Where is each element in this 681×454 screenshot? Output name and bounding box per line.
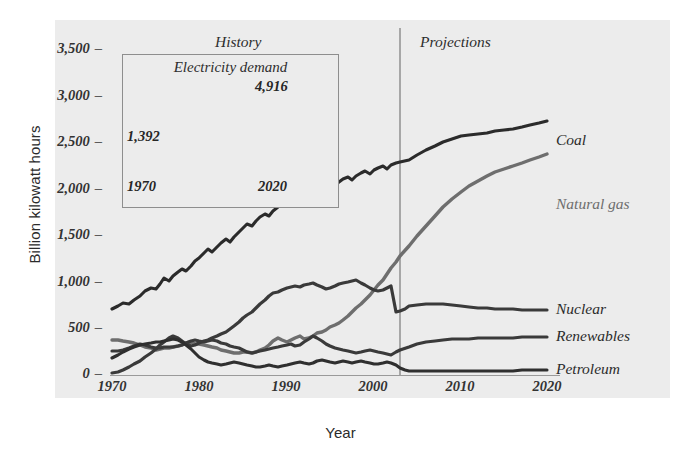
inset-start-value: 1,392 xyxy=(127,128,160,145)
series-label-renewables: Renewables xyxy=(556,327,630,345)
series-label-nuclear: Nuclear xyxy=(556,300,606,318)
inset-start-year: 1970 xyxy=(127,178,156,195)
series-label-coal: Coal xyxy=(556,131,586,149)
series-label-petroleum: Petroleum xyxy=(556,360,620,378)
series-label-natural-gas: Natural gas xyxy=(556,195,630,213)
inset-end-year: 2020 xyxy=(258,178,287,195)
series-line-petroleum xyxy=(112,339,547,371)
inset-end-value: 4,916 xyxy=(255,78,288,95)
inset-title: Electricity demand xyxy=(123,59,338,76)
chart-svg xyxy=(0,0,681,454)
figure-root: Billion kilowatt hours Year 3,500– 3,000… xyxy=(0,0,681,454)
